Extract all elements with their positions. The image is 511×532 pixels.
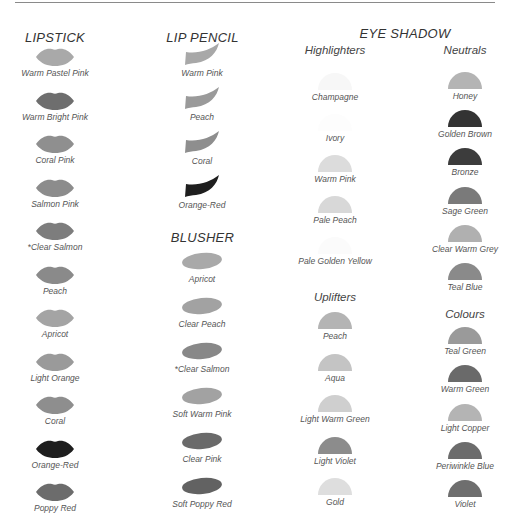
colour-item: Warm Green <box>415 364 511 394</box>
colour-label: Periwinkle Blue <box>415 461 511 471</box>
highlighter-label: Pale Peach <box>285 215 385 225</box>
blusher-item: Clear Pink <box>152 432 252 464</box>
uplifters-heading: Uplifters <box>290 291 380 303</box>
neutral-swatch-icon <box>415 186 511 204</box>
lipstick-label: Salmon Pink <box>5 199 105 209</box>
blusher-swatch-icon <box>152 432 252 450</box>
lipstick-item: Warm Bright Pink <box>5 91 105 122</box>
lipstick-label: Warm Pastel Pink <box>5 68 105 78</box>
colour-swatch-icon <box>415 479 511 497</box>
neutral-item: Golden Brown <box>415 109 511 139</box>
blusher-swatch-icon <box>152 342 252 360</box>
lip-pencil-item: Warm Pink <box>152 42 252 78</box>
blusher-label: Soft Warm Pink <box>152 409 252 419</box>
highlighter-label: Ivory <box>285 133 385 143</box>
colours-heading: Colours <box>425 308 505 320</box>
blusher-swatch-icon <box>152 477 252 495</box>
blusher-item: Soft Poppy Red <box>152 477 252 509</box>
uplifter-item: Light Violet <box>285 436 385 466</box>
lip-pencil-item: Coral <box>152 130 252 166</box>
uplifter-swatch-icon <box>285 311 385 329</box>
neutral-item: Teal Blue <box>415 262 511 292</box>
lip-pencil-swatch-icon <box>152 42 252 66</box>
colour-item: Violet <box>415 479 511 509</box>
highlighter-item: Warm Pink <box>285 154 385 184</box>
neutral-item: Sage Green <box>415 186 511 216</box>
uplifter-item: Gold <box>285 477 385 507</box>
neutral-label: Bronze <box>415 167 511 177</box>
neutral-label: Golden Brown <box>415 129 511 139</box>
lipstick-item: Coral <box>5 395 105 426</box>
lipstick-label: Orange-Red <box>5 460 105 470</box>
colour-item: Teal Green <box>415 326 511 356</box>
highlighter-label: Champagne <box>285 92 385 102</box>
lipstick-label: Apricot <box>5 329 105 339</box>
neutral-swatch-icon <box>415 109 511 127</box>
lip-pencil-label: Peach <box>152 112 252 122</box>
lipstick-item: Peach <box>5 265 105 296</box>
lipstick-item: Coral Pink <box>5 134 105 165</box>
colour-swatch-icon <box>415 326 511 344</box>
colour-swatch-icon <box>415 364 511 382</box>
lipstick-label: Coral <box>5 416 105 426</box>
uplifter-label: Peach <box>285 331 385 341</box>
uplifter-swatch-icon <box>285 477 385 495</box>
lipstick-label: Coral Pink <box>5 155 105 165</box>
lipstick-item: Orange-Red <box>5 439 105 470</box>
lip-pencil-swatch-icon <box>152 174 252 198</box>
lip-pencil-label: Warm Pink <box>152 68 252 78</box>
highlighter-swatch-icon <box>285 195 385 213</box>
lip-pencil-swatch-icon <box>152 130 252 154</box>
highlighter-swatch-icon <box>285 154 385 172</box>
blusher-swatch-icon <box>152 252 252 270</box>
uplifter-label: Light Warm Green <box>285 414 385 424</box>
colour-label: Light Copper <box>415 423 511 433</box>
lipstick-item: Salmon Pink <box>5 178 105 209</box>
blusher-item: Apricot <box>152 252 252 284</box>
neutral-label: Honey <box>415 91 511 101</box>
lip-pencil-swatch-icon <box>152 86 252 110</box>
lipstick-swatch-icon <box>5 265 105 285</box>
lip-pencil-label: Orange-Red <box>152 200 252 210</box>
lipstick-label: Peach <box>5 286 105 296</box>
highlighter-swatch-icon <box>285 72 385 90</box>
lipstick-swatch-icon <box>5 439 105 459</box>
highlighter-item: Champagne <box>285 72 385 102</box>
neutral-label: Teal Blue <box>415 282 511 292</box>
top-rule <box>15 2 495 3</box>
uplifter-label: Light Violet <box>285 456 385 466</box>
lipstick-swatch-icon <box>5 308 105 328</box>
uplifter-label: Gold <box>285 497 385 507</box>
blusher-heading: BLUSHER <box>155 230 250 245</box>
lipstick-label: Warm Bright Pink <box>5 112 105 122</box>
lip-pencil-item: Orange-Red <box>152 174 252 210</box>
blusher-label: Apricot <box>152 274 252 284</box>
blusher-label: Clear Pink <box>152 454 252 464</box>
colour-label: Violet <box>415 499 511 509</box>
neutral-item: Honey <box>415 71 511 101</box>
neutral-label: Sage Green <box>415 206 511 216</box>
blusher-label: *Clear Salmon <box>152 364 252 374</box>
colour-label: Warm Green <box>415 384 511 394</box>
colour-swatch-icon <box>415 441 511 459</box>
lipstick-item: Light Orange <box>5 352 105 383</box>
neutral-label: Clear Warm Grey <box>415 244 511 254</box>
highlighter-swatch-icon <box>285 236 385 254</box>
lipstick-swatch-icon <box>5 134 105 154</box>
lipstick-heading: LIPSTICK <box>15 30 95 45</box>
highlighter-item: Pale Peach <box>285 195 385 225</box>
colour-item: Periwinkle Blue <box>415 441 511 471</box>
lipstick-swatch-icon <box>5 91 105 111</box>
blusher-item: *Clear Salmon <box>152 342 252 374</box>
blusher-label: Soft Poppy Red <box>152 499 252 509</box>
uplifter-item: Peach <box>285 311 385 341</box>
blusher-item: Soft Warm Pink <box>152 387 252 419</box>
neutral-swatch-icon <box>415 262 511 280</box>
uplifter-item: Aqua <box>285 353 385 383</box>
neutral-item: Bronze <box>415 147 511 177</box>
blusher-label: Clear Peach <box>152 319 252 329</box>
lipstick-item: Warm Pastel Pink <box>5 47 105 78</box>
lipstick-swatch-icon <box>5 482 105 502</box>
lip-pencil-label: Coral <box>152 156 252 166</box>
lipstick-swatch-icon <box>5 352 105 372</box>
